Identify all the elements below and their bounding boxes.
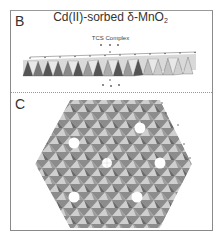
hexagonal-sheet-top-view (0, 0, 221, 241)
